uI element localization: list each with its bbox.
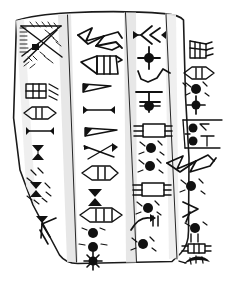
sign-star-dot-c2 <box>84 252 102 270</box>
sign-fan-arc <box>179 256 210 264</box>
sign-comb-box <box>190 41 213 58</box>
tablet-illustration <box>0 0 233 289</box>
impressed-square-dot <box>32 44 39 50</box>
top-caption <box>0 0 233 10</box>
sign-ruled-box-c4 <box>182 244 211 253</box>
tablet-drawing-figure <box>0 0 233 289</box>
sign-lens-with-bars <box>184 67 214 79</box>
